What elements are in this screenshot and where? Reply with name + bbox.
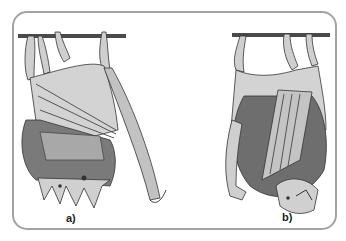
heads-a [38, 178, 110, 208]
panel-label-a: a) [66, 212, 76, 224]
panel-label-b: b) [282, 211, 292, 223]
head-b [276, 179, 318, 214]
bat-a [18, 32, 166, 208]
branch-b [232, 33, 330, 37]
bat-illustration [0, 0, 346, 241]
bat-b [226, 33, 330, 213]
